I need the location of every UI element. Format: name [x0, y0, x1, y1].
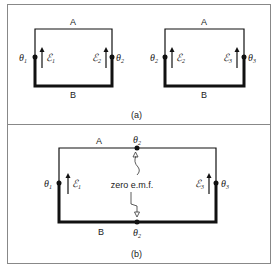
leader-arrow-down-icon — [135, 212, 140, 217]
junction-dot — [163, 55, 168, 60]
zero-emf-label: zero e.m.f. — [111, 180, 154, 190]
junction-theta1: θ1 — [44, 178, 52, 190]
caption-a: (a) — [131, 110, 142, 120]
label-b: B — [201, 90, 207, 100]
emf-e2: ℰ2 — [92, 52, 101, 64]
junction-dot-top — [135, 146, 140, 151]
thermocouple-diagram: A B θ1 ℰ1 ℰ2 θ2 A B θ2 ℰ2 ℰ3 θ3 (a) — [0, 0, 279, 274]
junction-dot — [242, 55, 247, 60]
emf-e1: ℰ1 — [72, 178, 81, 190]
leader-line-bottom — [131, 192, 137, 212]
circuit-a-left: A B θ1 ℰ1 ℰ2 θ2 — [19, 17, 124, 100]
junction-dot — [33, 55, 38, 60]
arrow-head-icon — [40, 47, 45, 52]
junction-dot-bottom — [135, 220, 140, 225]
label-a: A — [96, 136, 102, 146]
junction-theta2: θ2 — [116, 52, 124, 64]
arrow-head-icon — [170, 47, 175, 52]
emf-e1: ℰ1 — [46, 52, 55, 64]
label-b: B — [70, 90, 76, 100]
junction-dot — [57, 181, 62, 186]
junction-theta2-bottom: θ2 — [133, 227, 141, 239]
emf-e2: ℰ2 — [176, 52, 185, 64]
emf-e3: ℰ3 — [195, 178, 204, 190]
label-b: B — [98, 227, 104, 237]
leader-line-top — [135, 156, 139, 175]
junction-theta3: θ3 — [221, 178, 229, 190]
junction-dot — [110, 55, 115, 60]
label-a: A — [70, 17, 76, 27]
circuit-a-right: A B θ2 ℰ2 ℰ3 θ3 — [150, 17, 256, 100]
arrow-head-icon — [207, 173, 212, 178]
arrow-head-icon — [104, 47, 109, 52]
junction-theta1: θ1 — [19, 52, 27, 64]
emf-e3: ℰ3 — [223, 52, 232, 64]
figure-frame — [8, 5, 271, 264]
circuit-b: zero e.m.f. A B θ2 θ2 θ1 ℰ1 ℰ3 θ3 — [44, 134, 229, 239]
caption-b: (b) — [131, 249, 142, 259]
junction-theta3: θ3 — [248, 52, 256, 64]
junction-theta2-top: θ2 — [133, 134, 141, 146]
junction-theta2: θ2 — [150, 52, 158, 64]
label-a: A — [201, 17, 207, 27]
arrow-head-icon — [235, 47, 240, 52]
junction-dot — [214, 181, 219, 186]
arrow-head-icon — [66, 173, 71, 178]
